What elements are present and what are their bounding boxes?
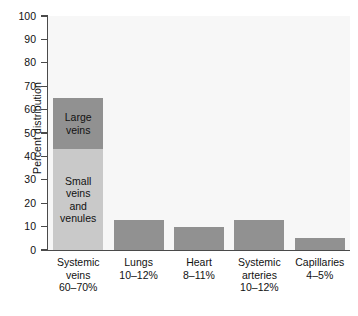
bar-segment-label-line: Large (53, 111, 103, 124)
bar-segment-label-line: veins (53, 124, 103, 137)
y-tick-label: 80 (0, 57, 36, 68)
y-tick-label: 90 (0, 34, 36, 45)
y-tick-label: 60 (0, 104, 36, 115)
y-tick-label: 40 (0, 151, 36, 162)
bar-segment-label-line: Small (53, 175, 103, 188)
bar-segment[interactable]: Largeveins (53, 98, 103, 149)
bar[interactable] (234, 220, 284, 250)
y-tick-label: 30 (0, 174, 36, 185)
y-tick-mark (41, 156, 48, 157)
y-tick-mark (41, 86, 48, 87)
bar-segment-label-line: venules (53, 212, 103, 225)
bar[interactable] (114, 220, 164, 250)
y-tick-label: 10 (0, 221, 36, 232)
bar-segment[interactable] (295, 238, 345, 250)
y-tick-mark (41, 203, 48, 204)
x-category-label-line: 60–70% (36, 281, 120, 294)
y-tick-label: 0 (0, 245, 36, 256)
y-tick-mark (41, 249, 48, 250)
y-tick-mark (41, 179, 48, 180)
y-tick-mark (41, 226, 48, 227)
x-category-label-line: 4–5% (278, 269, 358, 282)
bar-segment-label-line: and (53, 200, 103, 213)
bar-segment[interactable]: Smallveinsandvenules (53, 149, 103, 250)
y-tick-label: 100 (0, 11, 36, 22)
bar[interactable]: SmallveinsandvenulesLargeveins (53, 98, 103, 250)
y-tick-label: 20 (0, 198, 36, 209)
x-axis-line (47, 250, 350, 251)
y-tick-mark (41, 62, 48, 63)
y-tick-mark (41, 132, 48, 133)
bar[interactable] (174, 227, 224, 250)
bar-segment[interactable] (234, 220, 284, 250)
y-tick-mark (41, 39, 48, 40)
bar-segment-label: Largeveins (53, 111, 103, 136)
bar[interactable] (295, 238, 345, 250)
bar-segment[interactable] (114, 220, 164, 250)
bar-segment[interactable] (174, 227, 224, 250)
bar-segment-label-line: veins (53, 187, 103, 200)
y-tick-label: 70 (0, 81, 36, 92)
x-category-label-line: Capillaries (278, 256, 358, 269)
bar-segment-label: Smallveinsandvenules (53, 175, 103, 225)
x-category-label-line: 10–12% (217, 281, 301, 294)
bar-chart: Percent distribution 0102030405060708090… (0, 0, 358, 316)
y-tick-label: 50 (0, 128, 36, 139)
y-tick-mark (41, 109, 48, 110)
x-category-label: Capillaries4–5% (278, 256, 358, 281)
y-tick-mark (41, 15, 48, 16)
